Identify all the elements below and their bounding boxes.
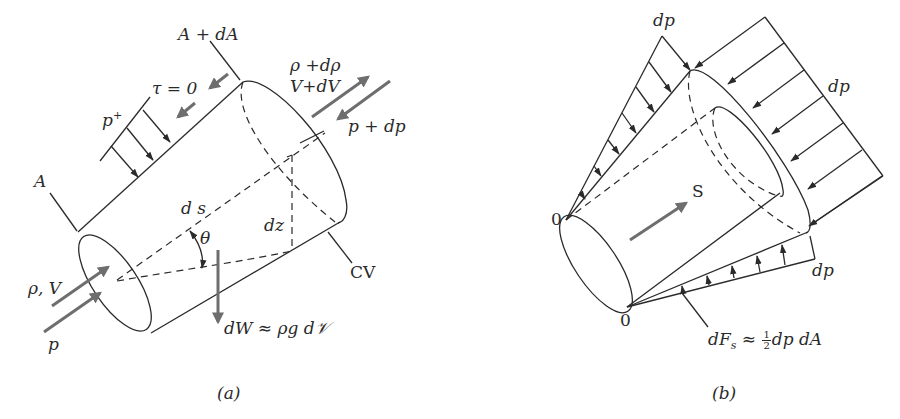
inlet-pressure-arrow <box>44 293 100 332</box>
label-area-out: A + dA <box>178 26 239 43</box>
caption-a: (a) <box>217 385 240 402</box>
label-velocity-out: V+dV <box>290 78 340 95</box>
label-angle-theta: θ <box>200 230 210 247</box>
outer-face-back <box>688 71 800 233</box>
area-in-leader <box>50 193 77 231</box>
side-force-leader <box>682 293 708 327</box>
tube-bottom-edge <box>151 222 340 333</box>
label-length-ds: d s <box>181 200 206 217</box>
fraction-half: 12 <box>762 330 770 351</box>
outer-face-front <box>690 70 810 233</box>
bottom-profile-outer <box>627 259 815 307</box>
inner-face-front <box>715 107 783 196</box>
label-dp-top: dp <box>653 12 675 29</box>
label-weight: dW ≈ ρg d𝒱 <box>224 320 329 337</box>
panel-b-pressure-cone <box>547 17 883 327</box>
label-pressure-out: p + dp <box>348 118 406 135</box>
inner-face-back <box>713 108 778 196</box>
label-pressure-side: p+ <box>102 110 122 129</box>
caption-b: (b) <box>712 385 736 402</box>
label-dp-bottom: dp <box>812 262 834 279</box>
cone-bottom-edge <box>627 232 808 307</box>
diagram-canvas <box>0 0 900 419</box>
right-profile-outer <box>765 17 883 176</box>
shear-arrow-1 <box>210 74 228 88</box>
inlet-face <box>65 224 164 341</box>
label-inlet-pressure: p <box>48 336 59 353</box>
label-direction-s: S <box>692 183 704 200</box>
label-area-in: A <box>34 173 46 190</box>
label-side-force: dFs ≈ 12dp dA <box>708 330 822 351</box>
label-height-dz: dz <box>264 217 284 234</box>
cv-leader <box>328 232 352 263</box>
label-shear: τ = 0 <box>152 80 197 97</box>
area-out-leader <box>210 41 240 80</box>
outlet-pressure-arrow <box>338 81 390 119</box>
label-control-volume: CV <box>350 264 375 281</box>
label-apex-bottom: 0 <box>620 312 631 329</box>
inner-cone-edge <box>627 193 780 307</box>
shear-arrow-2 <box>178 103 195 117</box>
direction-s-arrow <box>630 203 686 240</box>
label-apex-top: 0 <box>551 211 562 228</box>
label-dp-right: dp <box>828 78 850 95</box>
label-inlet-state: ρ, V <box>28 280 61 297</box>
apex-to-inner-dashed <box>566 108 715 220</box>
label-density-out: ρ +dρ <box>290 57 341 74</box>
